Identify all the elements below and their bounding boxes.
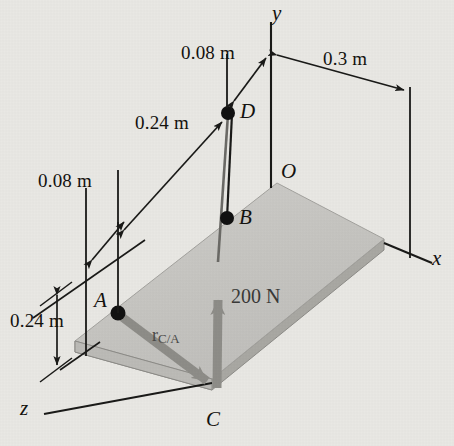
dim-03-label: 0.3 m (323, 49, 367, 68)
dim-024-left-label: 0.24 m (10, 311, 64, 330)
dim-008-left-line (92, 222, 124, 260)
dim-024-upper-line (124, 122, 222, 230)
point-c-label: C (206, 409, 220, 430)
force-vector-arrow (217, 300, 218, 388)
position-vector-label: rC/A (152, 326, 180, 345)
point-d-dot (221, 106, 235, 120)
dim-008-left-label: 0.08 m (38, 171, 92, 190)
guide-none (236, 22, 271, 60)
z-axis-label: z (20, 398, 28, 419)
mechanics-diagram: y x z O D B A C 0.08 m 0.3 m 0.24 m 0.08… (0, 0, 454, 446)
diagram-canvas (0, 0, 454, 446)
dim-008-top-line (234, 58, 266, 101)
dim-024-left-witness-bottom (40, 358, 72, 382)
dim-008-top-label: 0.08 m (181, 43, 235, 62)
position-vector-label-sub: C/A (158, 331, 180, 346)
origin-label: O (281, 161, 296, 182)
y-axis-label: y (272, 3, 281, 24)
x-axis-label: x (432, 248, 441, 269)
dim-024-upper-label: 0.24 m (135, 113, 189, 132)
z-axis-line (44, 383, 212, 414)
point-d-label: D (240, 101, 255, 122)
x-axis-line (384, 243, 432, 263)
point-b-dot (220, 211, 234, 225)
point-b-label: B (239, 207, 252, 228)
force-vector-label: 200 N (231, 286, 280, 306)
point-a-label: A (94, 290, 107, 311)
